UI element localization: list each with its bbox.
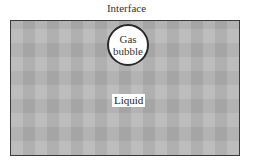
interface-label: Interface xyxy=(0,2,253,14)
gas-bubble-label-line2: bubble xyxy=(113,45,143,57)
gas-bubble-label-line1: Gas xyxy=(119,33,136,45)
gas-bubble: Gas bubble xyxy=(107,24,149,66)
liquid-label: Liquid xyxy=(112,94,145,107)
